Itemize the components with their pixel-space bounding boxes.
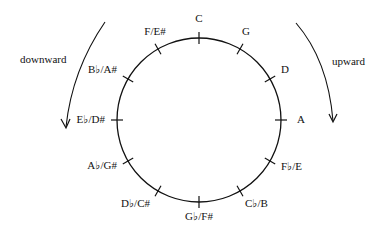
tick-mark: [155, 44, 161, 54]
upward-arrow: upward: [296, 23, 365, 122]
note-label: C: [195, 12, 202, 24]
note-label: E♭/D#: [77, 113, 106, 125]
note-label: C♭/B: [245, 197, 268, 209]
tick-mark: [123, 158, 133, 164]
note-label: A: [297, 113, 305, 125]
note-label: D: [281, 63, 289, 75]
note-label: F/E#: [144, 25, 166, 37]
diagram-canvas: CGDAF♭/EC♭/BG♭/F#D♭/C#A♭/G#E♭/D#B♭/A#F/E…: [0, 0, 385, 231]
note-label: G: [242, 25, 250, 37]
note-label: B♭/A#: [88, 63, 118, 75]
tick-mark: [155, 186, 161, 196]
tick-mark: [123, 76, 133, 82]
tick-mark: [265, 158, 275, 164]
tick-marks: [111, 32, 287, 208]
tick-mark: [237, 186, 243, 196]
circle-of-fifths-diagram: CGDAF♭/EC♭/BG♭/F#D♭/C#A♭/G#E♭/D#B♭/A#F/E…: [0, 0, 385, 231]
note-label: D♭/C#: [121, 197, 151, 209]
pitch-circle: [117, 38, 281, 202]
note-label: G♭/F#: [185, 210, 213, 222]
note-label: A♭/G#: [87, 159, 117, 171]
tick-mark: [265, 76, 275, 82]
note-labels: CGDAF♭/EC♭/BG♭/F#D♭/C#A♭/G#E♭/D#B♭/A#F/E…: [77, 12, 305, 222]
tick-mark: [237, 44, 243, 54]
upward-arrow-curve: [296, 23, 333, 121]
arrowhead-down-icon: [61, 119, 70, 128]
upward-label: upward: [332, 55, 365, 67]
downward-label: downward: [20, 53, 67, 65]
note-label: F♭/E: [281, 160, 302, 172]
